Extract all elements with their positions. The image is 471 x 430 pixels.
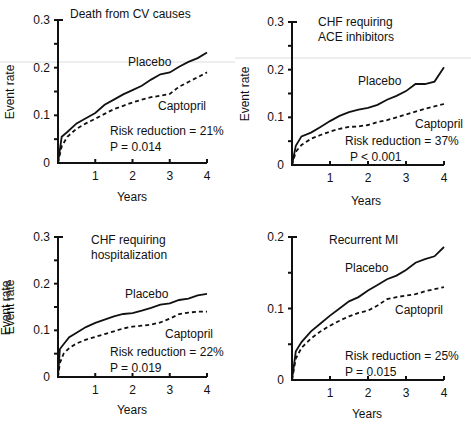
risk-reduction: Risk reduction = 37% [345,134,459,148]
panel-recurrent-mi: 00.10.21234Recurrent MIPlaceboCaptoprilR… [0,230,459,421]
x-tick-label: 1 [327,171,334,185]
panel-title: CHF requiring [91,233,166,247]
placebo-label: Placebo [345,261,389,275]
y-tick-label: 0.2 [267,230,284,244]
panel-title: CHF requiring [318,15,393,29]
y-tick-label: 0.2 [267,63,284,77]
x-axis-label: Years [117,403,147,417]
captopril-label: Captopril [395,303,443,317]
risk-reduction: Risk reduction = 21% [110,124,224,138]
p-value: P = 0.019 [110,361,162,375]
placebo-label: Placebo [358,74,402,88]
panel-title: hospitalization [91,248,167,262]
panel-title: Death from CV causes [70,7,191,21]
panel-chf-ace: 00.10.20.31234CHF requiringACE inhibitor… [238,15,463,208]
x-tick-label: 4 [204,383,211,397]
p-value: P < 0.001 [350,150,402,164]
y-tick-label: 0.3 [267,15,284,29]
y-tick-label: 0.2 [33,277,50,291]
x-tick-label: 4 [441,171,448,185]
y-tick-label: 0.2 [33,61,50,75]
x-tick-label: 2 [129,383,136,397]
y-tick-label: 0.1 [267,110,284,124]
captopril-label: Captopril [415,117,463,131]
panel-title: Recurrent MI [329,233,398,247]
y-tick-label: 0.1 [267,302,284,316]
x-axis-label: Years [117,190,147,204]
y-tick-label: 0.1 [33,323,50,337]
x-tick-label: 3 [166,169,173,183]
y-tick-label: 0 [277,373,284,387]
x-tick-label: 1 [327,386,334,400]
captopril-label: Captopril [165,327,213,341]
panel-death-cv: 00.10.20.31234Death from CV causesPlaceb… [3,7,224,204]
x-tick-label: 3 [403,386,410,400]
risk-reduction: Risk reduction = 22% [110,345,224,359]
y-axis-label: Event rate [238,66,252,121]
x-axis-label: Years [351,194,381,208]
y-tick-label: 0.3 [33,230,50,244]
y-tick-label: 0 [43,156,50,170]
y-tick-label: 0.3 [33,13,50,27]
risk-reduction: Risk reduction = 25% [345,349,459,363]
p-value: P = 0.014 [110,140,162,154]
x-tick-label: 4 [204,169,211,183]
x-tick-label: 2 [129,169,136,183]
y-tick-label: 0 [43,370,50,384]
x-tick-label: 1 [92,383,99,397]
x-axis-label: Years [352,407,382,421]
x-tick-label: 2 [365,171,372,185]
y-tick-label: 0 [277,158,284,172]
x-tick-label: 3 [166,383,173,397]
panel-chf-hosp: 00.10.20.31234CHF requiringhospitalizati… [3,230,224,417]
placebo-label: Placebo [128,55,172,69]
figure: 00.10.20.31234Death from CV causesPlaceb… [0,0,471,430]
captopril-label: Captopril [158,99,206,113]
placebo-label: Placebo [125,287,169,301]
x-tick-label: 2 [365,386,372,400]
panel-title: ACE inhibitors [318,30,394,44]
y-axis-label: Event rate [0,280,13,335]
x-tick-label: 3 [403,171,410,185]
x-tick-label: 4 [441,386,448,400]
p-value: P = 0.015 [345,365,397,379]
y-axis-label: Event rate [3,64,17,119]
y-tick-label: 0.1 [33,108,50,122]
x-tick-label: 1 [92,169,99,183]
